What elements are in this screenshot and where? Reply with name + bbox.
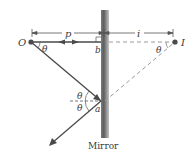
- ray-oa: [31, 42, 101, 101]
- arrow-right-icon: [72, 40, 79, 45]
- angle-arc-i: [166, 42, 168, 48]
- label-theta-a-upper: θ: [77, 91, 83, 101]
- label-theta-a-lower: θ: [77, 103, 83, 113]
- mirror-caption: Mirror: [88, 141, 119, 151]
- label-i: i: [137, 28, 140, 39]
- angle-arc-o: [38, 42, 40, 48]
- label-b: b: [95, 45, 101, 55]
- label-o: O: [18, 37, 26, 48]
- right-angle-marker: [96, 37, 101, 42]
- point-i: [172, 39, 177, 44]
- label-theta-i: θ: [156, 45, 162, 55]
- mirror-diagram: p i b O I θ θ θ θ a Mirror: [0, 0, 194, 162]
- label-i-point: I: [180, 37, 186, 48]
- dashed-ai: [105, 42, 175, 101]
- mirror: [101, 10, 109, 138]
- label-p: p: [65, 28, 72, 39]
- arrow-left-icon: [58, 40, 65, 45]
